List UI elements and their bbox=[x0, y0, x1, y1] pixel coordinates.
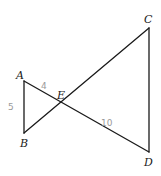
geometry-diagram: A B C D E 4 5 10 bbox=[0, 0, 161, 176]
vertex-label-c: C bbox=[144, 13, 153, 26]
length-annotation-ab: 5 bbox=[8, 102, 14, 112]
length-annotation-ae: 4 bbox=[41, 81, 47, 91]
vertex-label-a: A bbox=[15, 69, 24, 82]
length-annotation-ed: 10 bbox=[101, 118, 113, 128]
vertex-label-b: B bbox=[19, 137, 28, 150]
vertex-label-d: D bbox=[143, 156, 153, 169]
vertex-label-e: E bbox=[56, 89, 65, 102]
